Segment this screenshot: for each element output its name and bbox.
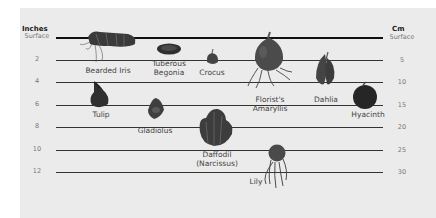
bulb-label-tulip: Tulip bbox=[61, 110, 141, 119]
bearded-iris-icon bbox=[80, 32, 135, 62]
bulb-label-daffodil-narcissus: Daffodil(Narcissus) bbox=[177, 150, 257, 168]
bulb-label-line: Tulip bbox=[61, 110, 141, 119]
bulb-label-line: Amaryllis bbox=[230, 104, 310, 113]
bulb-label-dahlia: Dahlia bbox=[286, 95, 366, 104]
bulb-label-line: Daffodil bbox=[177, 150, 257, 159]
tuberous-begonia-icon bbox=[157, 44, 181, 55]
bulb-label-line: (Narcissus) bbox=[177, 159, 257, 168]
daffodil-icon bbox=[200, 109, 233, 146]
gladiolus-icon bbox=[148, 98, 164, 119]
bulb-label-line: Lily bbox=[216, 177, 296, 186]
bulb-label-crocus: Crocus bbox=[172, 68, 252, 77]
bulb-label-line: Tuberous bbox=[129, 59, 209, 68]
bulb-label-hyacinth: Hyacinth bbox=[328, 110, 408, 119]
bulb-label-line: Gladiolus bbox=[115, 126, 195, 135]
bulb-label-line: Crocus bbox=[172, 68, 252, 77]
dahlia-icon bbox=[316, 52, 334, 84]
bulb-label-gladiolus: Gladiolus bbox=[115, 126, 195, 135]
bulb-label-line: Hyacinth bbox=[328, 110, 408, 119]
bulb-label-line: Dahlia bbox=[286, 95, 366, 104]
florists-amaryllis-icon bbox=[248, 32, 292, 88]
tulip-icon bbox=[90, 82, 108, 107]
bulb-label-lily: Lily bbox=[216, 177, 296, 186]
